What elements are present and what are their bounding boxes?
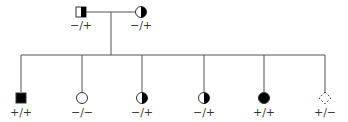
child-2-genotype: −/− <box>71 106 93 119</box>
child-6-genotype: +/− <box>314 106 336 119</box>
child-1-symbol <box>16 93 26 103</box>
child-6-symbol <box>319 92 331 104</box>
child-4-symbol <box>199 93 210 104</box>
child-5-symbol <box>259 93 270 104</box>
mother-genotype: −/+ <box>130 19 152 32</box>
child-3-symbol <box>137 93 148 104</box>
child-2-symbol <box>77 93 88 104</box>
child-4-genotype: −/+ <box>193 106 215 119</box>
pedigree-diagram: −/+ −/+ +/+−/−−/+−/++/++/− <box>0 0 348 122</box>
mother-symbol <box>136 7 147 18</box>
child-1-genotype: +/+ <box>10 106 32 119</box>
father-genotype: −/+ <box>70 19 92 32</box>
child-3-genotype: −/+ <box>131 106 153 119</box>
child-5-genotype: +/+ <box>253 106 275 119</box>
father-symbol <box>76 7 86 17</box>
